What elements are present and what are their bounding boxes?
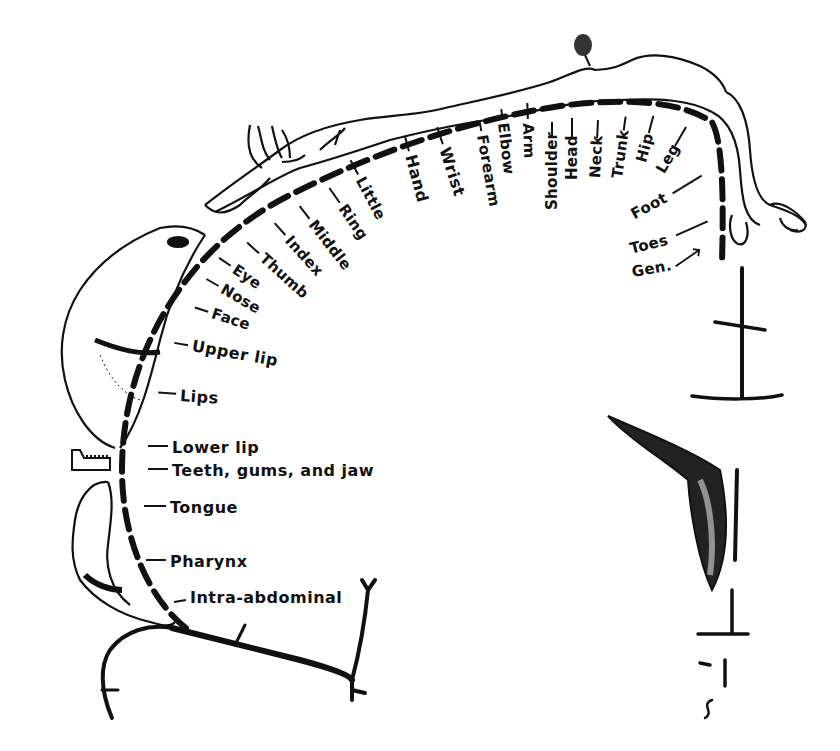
svg-text:Neck: Neck: [586, 134, 606, 178]
label-upper-lip: Upper lip: [173, 333, 280, 370]
svg-text:Lower lip: Lower lip: [172, 438, 259, 457]
svg-text:Tongue: Tongue: [170, 498, 238, 517]
label-pharynx: Pharynx: [146, 552, 248, 571]
svg-text:Arm: Arm: [519, 123, 538, 159]
svg-text:Teeth, gums, and jaw: Teeth, gums, and jaw: [172, 461, 374, 480]
svg-text:Gen.: Gen.: [630, 256, 673, 281]
svg-text:Head: Head: [563, 135, 581, 180]
svg-text:Wrist: Wrist: [435, 145, 469, 199]
label-foot: Foot: [628, 169, 707, 222]
label-eye: Eye: [214, 250, 265, 292]
svg-text:Toes: Toes: [628, 231, 670, 258]
jaw-icon: [72, 450, 110, 470]
label-leg: Leg: [652, 122, 694, 176]
label-head: Head: [563, 118, 581, 180]
label-lips: Lips: [157, 384, 219, 407]
label-intra-abdominal: Intra-abdominal: [174, 588, 342, 607]
label-trunk: Trunk: [608, 115, 634, 179]
svg-text:Trunk: Trunk: [608, 128, 633, 180]
head-icon: [574, 34, 592, 66]
label-tongue: Tongue: [144, 498, 238, 517]
svg-text:Pharynx: Pharynx: [170, 552, 248, 571]
svg-text:Upper lip: Upper lip: [190, 336, 279, 370]
svg-text:Shoulder: Shoulder: [543, 131, 561, 210]
label-shoulder: Shoulder: [543, 122, 561, 210]
svg-text:Lips: Lips: [179, 386, 219, 408]
svg-text:Foot: Foot: [628, 189, 671, 223]
svg-text:Intra-abdominal: Intra-abdominal: [190, 588, 342, 607]
label-lower-lip: Lower lip: [148, 438, 259, 457]
face-figure: [62, 226, 205, 448]
label-teeth-gums-jaw: Teeth, gums, and jaw: [148, 461, 374, 480]
svg-text:Hip: Hip: [632, 131, 657, 164]
svg-text:Leg: Leg: [652, 140, 683, 176]
svg-text:Hand: Hand: [401, 152, 432, 204]
homunculus-diagram: Little Hand Wrist Forearm Elbow Arm Shou…: [0, 0, 840, 751]
label-neck: Neck: [586, 120, 607, 179]
